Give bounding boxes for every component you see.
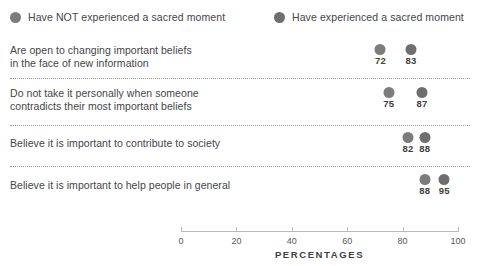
axis-tick-label: 0: [178, 236, 183, 246]
axis-tick-label: 40: [287, 236, 297, 246]
x-axis: 0 20 40 60 80 100: [181, 231, 458, 232]
axis-tick: [458, 227, 459, 232]
data-dot-not-experienced: [419, 174, 430, 185]
chart-container: Have NOT experienced a sacred moment Hav…: [0, 0, 479, 266]
data-dot-experienced: [439, 174, 450, 185]
legend-item-experienced: Have experienced a sacred moment: [274, 12, 464, 23]
table-row: Believe it is important to contribute to…: [0, 125, 479, 166]
data-value-experienced: 95: [439, 186, 450, 196]
table-row: Are open to changing important beliefs i…: [0, 38, 479, 83]
data-dot-experienced: [417, 87, 428, 98]
table-row: Believe it is important to help people i…: [0, 166, 479, 208]
axis-tick: [292, 227, 293, 232]
row-points: 72 83: [0, 38, 479, 83]
axis-tick-label: 60: [342, 236, 352, 246]
data-point-not-experienced: 82: [403, 132, 414, 154]
legend-dot-experienced: [274, 12, 285, 23]
data-point-not-experienced: 88: [419, 174, 430, 196]
axis-tick: [347, 227, 348, 232]
axis-title: PERCENTAGES: [181, 249, 458, 260]
legend-label-experienced: Have experienced a sacred moment: [292, 12, 464, 23]
data-point-experienced: 83: [406, 44, 417, 66]
data-point-experienced: 88: [419, 132, 430, 154]
data-value-experienced: 87: [417, 99, 428, 109]
axis-tick-label: 20: [231, 236, 241, 246]
row-points: 75 87: [0, 78, 479, 125]
legend-item-not-experienced: Have NOT experienced a sacred moment: [10, 12, 225, 23]
legend-dot-not-experienced: [10, 12, 21, 23]
data-point-experienced: 87: [417, 87, 428, 109]
data-value-not-experienced: 88: [419, 186, 430, 196]
data-point-not-experienced: 72: [375, 44, 386, 66]
data-point-not-experienced: 75: [383, 87, 394, 109]
axis-tick: [181, 227, 182, 232]
data-value-not-experienced: 82: [403, 144, 414, 154]
data-value-not-experienced: 72: [375, 56, 386, 66]
data-dot-experienced: [406, 44, 417, 55]
data-dot-experienced: [419, 132, 430, 143]
axis-tick: [236, 227, 237, 232]
legend-label-not-experienced: Have NOT experienced a sacred moment: [28, 12, 225, 23]
axis-tick: [403, 227, 404, 232]
data-point-experienced: 95: [439, 174, 450, 196]
row-points: 82 88: [0, 125, 479, 166]
axis-tick-label: 100: [450, 236, 465, 246]
data-dot-not-experienced: [403, 132, 414, 143]
axis-tick-label: 80: [398, 236, 408, 246]
data-dot-not-experienced: [383, 87, 394, 98]
chart-legend: Have NOT experienced a sacred moment Hav…: [0, 12, 479, 32]
data-dot-not-experienced: [375, 44, 386, 55]
row-points: 88 95: [0, 166, 479, 208]
data-value-experienced: 88: [419, 144, 430, 154]
table-row: Do not take it personally when someone c…: [0, 78, 479, 125]
data-value-not-experienced: 75: [383, 99, 394, 109]
data-value-experienced: 83: [406, 56, 417, 66]
